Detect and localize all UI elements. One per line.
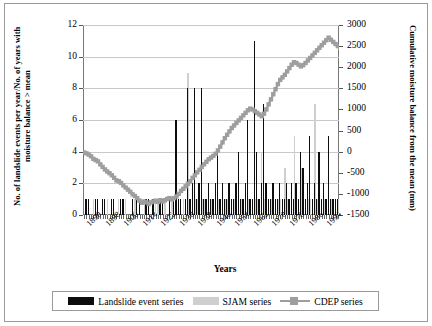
landslide-bar xyxy=(277,199,278,215)
landslide-bar xyxy=(270,199,271,215)
landslide-bar xyxy=(245,183,246,215)
landslide-bar xyxy=(325,199,326,215)
landslide-bar xyxy=(265,183,266,215)
landslide-bar xyxy=(328,136,329,215)
landslide-bar xyxy=(173,199,174,215)
landslide-bar xyxy=(148,199,149,215)
y-axis-left-tick-label: 4 xyxy=(53,146,77,156)
landslide-bar xyxy=(268,199,269,215)
landslide-bar xyxy=(189,199,190,215)
landslide-bar xyxy=(298,199,299,215)
landslide-bar xyxy=(139,199,140,215)
landslide-bar xyxy=(288,199,289,215)
landslide-bar xyxy=(132,199,133,215)
y-axis-right-tick-label: 3000 xyxy=(347,19,379,29)
landslide-bar xyxy=(256,152,257,215)
chart-figure: No. of landslide events per year/No. of … xyxy=(0,0,432,326)
legend-label-landslide: Landslide event series xyxy=(98,296,183,307)
landslide-bar xyxy=(217,152,218,215)
legend-item-landslide: Landslide event series xyxy=(68,296,183,307)
landslide-bar xyxy=(233,199,234,215)
landslide-bar xyxy=(97,199,98,215)
landslide-bar xyxy=(321,199,322,215)
landslide-bar xyxy=(102,199,103,215)
landslide-bar xyxy=(249,199,250,215)
landslide-bar xyxy=(222,183,223,215)
y-axis-left-tick-mark xyxy=(79,152,83,153)
landslide-bar xyxy=(235,183,236,215)
landslide-bar xyxy=(261,183,262,215)
landslide-bar xyxy=(284,199,285,215)
plot-area xyxy=(83,25,339,215)
landslide-bar xyxy=(215,183,216,215)
landslide-bar xyxy=(196,199,197,215)
gridline xyxy=(83,57,339,58)
legend-label-sjam: SJAM series xyxy=(223,296,272,307)
y-axis-left-tick-label: 8 xyxy=(53,82,77,92)
landslide-bar xyxy=(111,199,112,215)
sjam-bar xyxy=(164,199,165,215)
landslide-bar xyxy=(104,199,105,215)
black-bar-swatch-icon xyxy=(68,297,94,305)
landslide-bar xyxy=(330,199,331,215)
gray-line-marker-swatch-icon xyxy=(280,297,310,305)
landslide-bar xyxy=(145,199,146,215)
landslide-bar xyxy=(332,199,333,215)
y-axis-left-title: No. of landslide events per year/No. of … xyxy=(12,18,42,214)
landslide-bar xyxy=(323,183,324,215)
landslide-bar xyxy=(316,199,317,215)
landslide-bar xyxy=(169,199,170,215)
y-axis-right-tick-mark xyxy=(339,67,343,68)
landslide-bar xyxy=(210,199,211,215)
landslide-bar xyxy=(219,199,220,215)
landslide-bar xyxy=(242,199,243,215)
landslide-bar xyxy=(88,199,89,215)
landslide-bar xyxy=(291,183,292,215)
y-axis-left-tick-mark xyxy=(79,183,83,184)
landslide-bar xyxy=(201,88,202,215)
landslide-bar xyxy=(178,199,179,215)
y-axis-left-tick-mark xyxy=(79,57,83,58)
landslide-bar xyxy=(300,152,301,215)
landslide-bar xyxy=(159,199,160,215)
gridline xyxy=(83,120,339,121)
landslide-bar xyxy=(337,199,338,215)
sjam-bar xyxy=(155,199,156,215)
y-axis-right-tick-label: 0 xyxy=(347,146,379,156)
landslide-bar xyxy=(295,183,296,215)
y-axis-right-tick-label: 2500 xyxy=(347,40,379,50)
y-axis-left-tick-label: 6 xyxy=(53,114,77,124)
landslide-bar xyxy=(113,199,114,215)
landslide-bar xyxy=(282,199,283,215)
landslide-bar xyxy=(180,199,181,215)
y-axis-right-tick-mark xyxy=(339,173,343,174)
landslide-bar xyxy=(198,183,199,215)
landslide-bar xyxy=(228,183,229,215)
y-axis-right-tick-mark xyxy=(339,131,343,132)
landslide-bar xyxy=(85,199,86,215)
landslide-bar xyxy=(247,120,248,215)
landslide-bar xyxy=(286,183,287,215)
landslide-bar xyxy=(279,183,280,215)
landslide-bar xyxy=(272,183,273,215)
landslide-bar xyxy=(314,183,315,215)
landslide-bar xyxy=(335,199,336,215)
y-axis-right-tick-label: 1000 xyxy=(347,103,379,113)
gridline xyxy=(83,25,339,26)
y-axis-right-tick-mark xyxy=(339,46,343,47)
legend-item-sjam: SJAM series xyxy=(193,296,272,307)
sjam-bar xyxy=(125,199,126,215)
y-axis-left-tick-mark xyxy=(79,25,83,26)
landslide-bar xyxy=(224,199,225,215)
landslide-bar xyxy=(136,199,137,215)
landslide-bar xyxy=(175,120,176,215)
landslide-bar xyxy=(192,183,193,215)
landslide-bar xyxy=(240,199,241,215)
chart-legend: Landslide event series SJAM series CDEP … xyxy=(52,291,379,311)
landslide-bar xyxy=(203,199,204,215)
y-axis-right-tick-label: 1500 xyxy=(347,82,379,92)
landslide-bar xyxy=(162,199,163,215)
landslide-bar xyxy=(212,199,213,215)
y-axis-right-tick-mark xyxy=(339,194,343,195)
y-axis-right-tick-mark xyxy=(339,88,343,89)
